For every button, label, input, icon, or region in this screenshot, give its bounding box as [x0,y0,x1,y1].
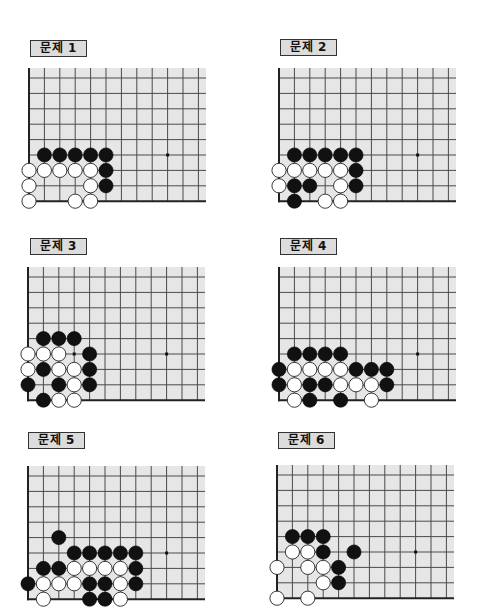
white-stone [301,560,315,574]
white-stone [270,591,284,605]
black-stone [347,545,361,559]
white-stone [285,545,299,559]
white-stone [270,560,284,574]
black-stone [332,576,346,590]
black-stone [316,530,330,544]
black-stone [285,530,299,544]
go-board-6 [0,0,478,616]
black-stone [301,530,315,544]
white-stone [301,591,315,605]
white-stone [316,576,330,590]
star-point [414,551,417,554]
white-stone [301,545,315,559]
black-stone [316,545,330,559]
white-stone [316,560,330,574]
black-stone [332,560,346,574]
